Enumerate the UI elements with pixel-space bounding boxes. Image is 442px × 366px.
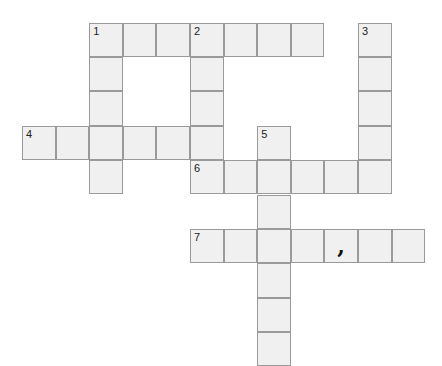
- crossword-cell[interactable]: [358, 91, 392, 125]
- crossword-cell[interactable]: 7: [190, 229, 224, 263]
- clue-number: 4: [26, 129, 32, 140]
- clue-number: 1: [93, 26, 99, 37]
- prefilled-character: ,: [325, 230, 357, 262]
- crossword-cell[interactable]: [156, 23, 190, 57]
- clue-number: 5: [261, 129, 267, 140]
- crossword-cell[interactable]: 3: [358, 23, 392, 57]
- crossword-cell[interactable]: [89, 160, 123, 194]
- crossword-cell[interactable]: [291, 229, 325, 263]
- crossword-cell[interactable]: [291, 160, 325, 194]
- crossword-cell[interactable]: [257, 298, 291, 332]
- crossword-cell[interactable]: [224, 160, 258, 194]
- crossword-cell[interactable]: 1: [89, 23, 123, 57]
- crossword-cell[interactable]: [257, 195, 291, 229]
- crossword-cell[interactable]: [291, 23, 325, 57]
- crossword-cell[interactable]: [190, 126, 224, 160]
- crossword-cell[interactable]: [257, 263, 291, 297]
- crossword-cell[interactable]: [156, 126, 190, 160]
- crossword-cell[interactable]: [257, 23, 291, 57]
- crossword-cell[interactable]: 4: [22, 126, 56, 160]
- crossword-cell[interactable]: 6: [190, 160, 224, 194]
- crossword-cell[interactable]: [358, 126, 392, 160]
- crossword-cell[interactable]: [358, 57, 392, 91]
- crossword-cell[interactable]: [123, 23, 157, 57]
- crossword-cell[interactable]: 5: [257, 126, 291, 160]
- clue-number: 7: [194, 232, 200, 243]
- crossword-cell[interactable]: [56, 126, 90, 160]
- crossword-cell[interactable]: [257, 332, 291, 366]
- crossword-cell[interactable]: [190, 91, 224, 125]
- crossword-cell[interactable]: [257, 160, 291, 194]
- clue-number: 6: [194, 163, 200, 174]
- crossword-cell[interactable]: [392, 229, 426, 263]
- crossword-cell[interactable]: [89, 57, 123, 91]
- crossword-cell[interactable]: [224, 229, 258, 263]
- crossword-cell[interactable]: [224, 23, 258, 57]
- crossword-cell[interactable]: [190, 57, 224, 91]
- crossword-cell[interactable]: ,: [324, 229, 358, 263]
- crossword-cell[interactable]: [324, 160, 358, 194]
- crossword-cell[interactable]: [89, 91, 123, 125]
- crossword-cell[interactable]: [257, 229, 291, 263]
- clue-number: 3: [362, 26, 368, 37]
- crossword-cell[interactable]: [89, 126, 123, 160]
- crossword-cell[interactable]: [358, 160, 392, 194]
- crossword-cell[interactable]: [123, 126, 157, 160]
- crossword-cell[interactable]: [358, 229, 392, 263]
- crossword-cell[interactable]: 2: [190, 23, 224, 57]
- clue-number: 2: [194, 26, 200, 37]
